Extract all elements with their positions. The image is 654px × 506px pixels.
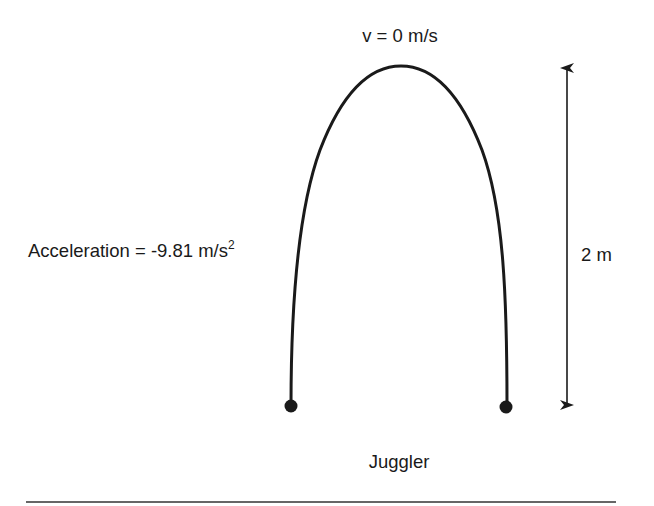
height-label: 2 m xyxy=(581,244,612,265)
ball-start-point xyxy=(285,400,298,413)
apex-velocity-label: v = 0 m/s xyxy=(362,25,438,46)
ball-trajectory-arc xyxy=(291,66,507,406)
juggler-label: Juggler xyxy=(369,451,430,472)
acceleration-exponent: 2 xyxy=(228,238,235,252)
ball-end-point xyxy=(500,401,513,414)
acceleration-label: Acceleration = -9.81 m/s2 xyxy=(28,238,235,261)
juggling-trajectory-diagram: v = 0 m/s Acceleration = -9.81 m/s2 2 m … xyxy=(0,0,654,506)
